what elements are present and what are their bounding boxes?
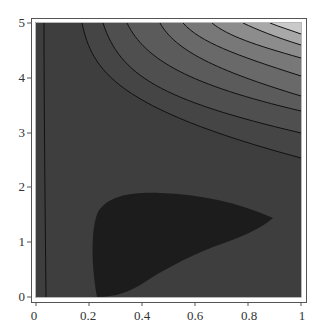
x-tick-label: 0.4 [134, 308, 151, 323]
y-tick-label: 1 [19, 234, 26, 249]
y-tick-label: 0 [19, 289, 26, 304]
x-tick-label: 0.2 [80, 308, 96, 323]
x-tick-label: 1 [299, 308, 306, 323]
x-tick-label: 0.6 [187, 308, 204, 323]
y-tick-label: 3 [19, 125, 26, 140]
y-axis: 0 1 2 3 4 5 [19, 15, 26, 304]
x-axis: 0 0.2 0.4 0.6 0.8 1 [31, 308, 306, 323]
x-tick-label: 0.8 [241, 308, 257, 323]
y-tick-label: 4 [19, 70, 26, 85]
x-tick-label: 0 [31, 308, 38, 323]
y-tick-label: 5 [19, 15, 26, 30]
contour-plot: 0 0.2 0.4 0.6 0.8 1 0 1 2 3 4 5 [0, 0, 324, 332]
plot-area [36, 23, 301, 297]
y-tick-label: 2 [19, 179, 26, 194]
